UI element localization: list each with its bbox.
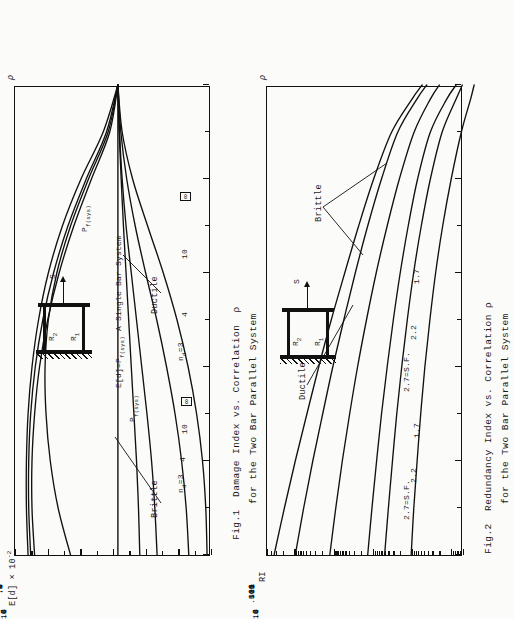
fig2-lower-label-22: 2.2 xyxy=(409,325,418,340)
fig1-lower-label-inf: ∞ xyxy=(180,192,191,201)
x-tick xyxy=(455,84,461,85)
fig2-y-axis-title: RI xyxy=(258,571,268,582)
y-minor-tick xyxy=(379,551,380,555)
sketch-label-r1: R1 xyxy=(313,338,325,346)
fig1-ductile-label: Ductile xyxy=(150,276,160,314)
fig1-pf-sys-label-right: Pf(sys) xyxy=(80,205,93,232)
x-minor-tick xyxy=(457,507,461,508)
wall-hatching-icon xyxy=(36,354,92,359)
x-minor-tick xyxy=(205,413,209,414)
y-minor-tick xyxy=(393,551,394,555)
y-minor-tick xyxy=(377,551,378,555)
y-minor-tick xyxy=(340,551,341,555)
x-minor-tick xyxy=(205,319,209,320)
load-arrow-line xyxy=(307,286,308,308)
y-minor-tick xyxy=(424,551,425,555)
y-minor-tick xyxy=(300,551,301,555)
x-minor-tick xyxy=(457,131,461,132)
fig1-upper-label-4: 4 xyxy=(178,457,187,462)
fig1-pf-sys-label: Pf(sys) xyxy=(128,395,141,422)
y-minor-tick xyxy=(432,551,433,555)
bar-r1 xyxy=(82,306,85,350)
load-arrow-head-icon xyxy=(304,281,310,287)
y-minor-tick xyxy=(162,551,163,555)
y-tick xyxy=(267,549,268,555)
y-minor-tick xyxy=(64,551,65,555)
fig2-two-bar-sketch: R2 R1 S xyxy=(280,274,336,364)
y-minor-tick xyxy=(129,551,130,555)
y-minor-tick xyxy=(381,551,382,555)
x-minor-tick xyxy=(205,507,209,508)
curve-ductile-n-d- xyxy=(118,85,207,555)
fig1-y-axis-title-text: E[d] × 10 xyxy=(8,558,18,606)
wall-icon xyxy=(280,355,336,359)
leader-line xyxy=(323,163,387,207)
bar-r2 xyxy=(43,306,46,350)
fig2-lower-label-17: 1.7 xyxy=(412,269,421,284)
fig1-brittle-label: Brittle xyxy=(150,480,160,518)
x-minor-tick xyxy=(457,413,461,414)
y-minor-tick xyxy=(375,551,376,555)
fig1-lower-label-4: 4 xyxy=(180,312,189,317)
y-minor-tick xyxy=(414,551,415,555)
x-tick xyxy=(203,460,209,461)
y-minor-tick xyxy=(296,551,297,555)
x-tick xyxy=(455,366,461,367)
fig1-x-axis-title: ρ xyxy=(6,75,16,80)
rigid-plate xyxy=(282,308,334,312)
y-minor-tick xyxy=(31,551,32,555)
sketch-label-s: S xyxy=(48,274,57,279)
y-minor-tick xyxy=(388,551,389,555)
fig2-caption-line-1: Fig.2 Redundancy Index vs. Correlation ρ xyxy=(480,302,497,554)
y-tick xyxy=(178,549,179,555)
fig1-two-bar-sketch: R2 R1 S xyxy=(36,269,92,359)
y-minor-tick xyxy=(335,551,336,555)
x-tick xyxy=(455,460,461,461)
x-minor-tick xyxy=(205,225,209,226)
sketch-label-r2: R2 xyxy=(47,333,59,341)
x-tick xyxy=(203,272,209,273)
y-minor-tick xyxy=(349,551,350,555)
x-tick xyxy=(455,272,461,273)
fig2-ductile-label: Ductile xyxy=(298,362,308,400)
y-minor-tick xyxy=(315,551,316,555)
y-tick xyxy=(211,549,212,555)
x-tick xyxy=(203,84,209,85)
x-tick xyxy=(203,554,209,555)
x-minor-tick xyxy=(457,319,461,320)
rigid-plate xyxy=(38,303,90,307)
y-minor-tick xyxy=(195,551,196,555)
x-tick xyxy=(203,366,209,367)
y-minor-tick xyxy=(283,551,284,555)
fig1-upper-label-10: 10 xyxy=(180,424,189,434)
y-tick-label: .005 xyxy=(248,584,256,614)
y-tick xyxy=(463,549,464,555)
sketch-label-r2: R2 xyxy=(291,338,303,346)
y-minor-tick xyxy=(354,551,355,555)
wall-hatching-icon xyxy=(280,359,336,364)
x-tick xyxy=(203,178,209,179)
y-minor-tick xyxy=(418,551,419,555)
y-minor-tick xyxy=(298,551,299,555)
fig1-upper-label-nd: nd=3 xyxy=(176,474,189,493)
y-minor-tick xyxy=(306,551,307,555)
x-minor-tick xyxy=(205,131,209,132)
y-minor-tick xyxy=(457,551,458,555)
y-tick xyxy=(113,549,114,555)
figure-1: E[d] × 10-2 ρ Brittle Ductile nd=3 4 10 … xyxy=(0,14,250,614)
y-minor-tick xyxy=(460,551,461,555)
y-tick xyxy=(48,549,49,555)
y-minor-tick xyxy=(439,551,440,555)
fig1-lower-label-nd: nd=3 xyxy=(176,342,189,361)
fig2-x-axis-title: ρ xyxy=(258,75,268,80)
curve-brittle-2-7-s-f- xyxy=(368,85,456,555)
fig1-upper-label-inf: ∞ xyxy=(181,397,192,406)
y-tick-label: .0 xyxy=(0,584,4,614)
y-minor-tick xyxy=(421,551,422,555)
y-tick xyxy=(15,549,16,555)
load-arrow-head-icon xyxy=(60,276,66,282)
fig2-brittle-label: Brittle xyxy=(314,184,324,222)
y-minor-tick xyxy=(455,551,456,555)
y-minor-tick xyxy=(453,551,454,555)
